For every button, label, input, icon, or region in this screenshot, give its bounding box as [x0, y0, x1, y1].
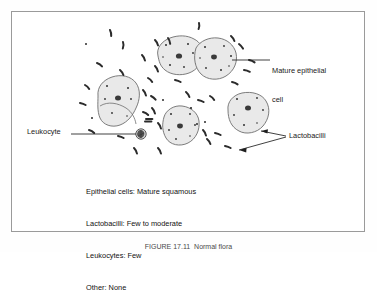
label-mature-epithelial-line2: cell [272, 95, 326, 105]
legend-epithelial-cells: Epithelial cells: Mature squamous [86, 187, 196, 198]
label-lactobacilli: Lactobacilli [289, 131, 326, 141]
figure-caption: FIGURE 17.11 Normal flora [0, 243, 377, 252]
legend-other: Other: None [86, 283, 196, 294]
legend-leukocytes: Leukocytes: Few [86, 251, 196, 262]
label-mature-epithelial-line1: Mature epithelial [272, 66, 326, 76]
label-mature-epithelial-cell: Mature epithelial cell [272, 47, 326, 124]
legend-lactobacilli: Lactobacilli: Few to moderate [86, 219, 196, 230]
label-leukocyte: Leukocyte [27, 127, 61, 137]
findings-legend: Epithelial cells: Mature squamous Lactob… [86, 166, 196, 294]
